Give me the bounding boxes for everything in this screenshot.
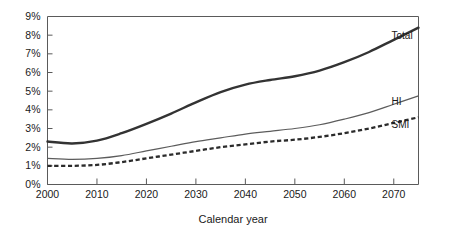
y-tick-label: 1% <box>25 159 40 171</box>
x-tick-label: 2040 <box>234 188 258 200</box>
chart-container: 0%1%2%3%4%5%6%7%8%9% 2000201020202030204… <box>0 0 452 237</box>
series-label-total: Total <box>392 30 413 41</box>
y-tick-label: 9% <box>25 10 40 22</box>
y-tick-label: 5% <box>25 85 40 97</box>
plot-border <box>48 17 419 185</box>
data-series-group <box>48 28 419 166</box>
series-label-hi: HI <box>392 96 402 107</box>
y-tick-label: 2% <box>25 141 40 153</box>
y-tick-label: 3% <box>25 122 40 134</box>
y-tick-label: 7% <box>25 47 40 59</box>
x-tick-label: 2010 <box>85 188 109 200</box>
series-line-hi <box>48 96 419 159</box>
x-tick-label: 2020 <box>135 188 159 200</box>
series-line-smi <box>48 117 419 166</box>
series-line-total <box>48 28 419 144</box>
x-axis-title: Calendar year <box>198 213 267 225</box>
x-axis-ticks: 20002010202020302040205020602070 <box>36 179 406 200</box>
x-tick-label: 2000 <box>36 188 60 200</box>
x-tick-label: 2070 <box>382 188 406 200</box>
x-tick-label: 2030 <box>184 188 208 200</box>
series-label-smi: SMI <box>392 119 410 130</box>
y-tick-label: 4% <box>25 103 40 115</box>
line-chart: 0%1%2%3%4%5%6%7%8%9% 2000201020202030204… <box>0 0 452 237</box>
plot-frame <box>48 17 419 185</box>
x-tick-label: 2050 <box>283 188 307 200</box>
y-tick-label: 8% <box>25 29 40 41</box>
y-tick-label: 6% <box>25 66 40 78</box>
y-axis-ticks: 0%1%2%3%4%5%6%7%8%9% <box>25 10 52 190</box>
series-labels-group: TotalHISMI <box>392 30 413 131</box>
x-tick-label: 2060 <box>333 188 357 200</box>
